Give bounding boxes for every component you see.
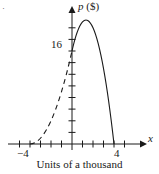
y-axis-symbol: p <box>78 0 84 12</box>
curve-dashed-branch <box>30 51 72 144</box>
x-axis-arrow-icon <box>140 141 147 148</box>
y-axis-label: p ($) <box>78 1 99 12</box>
y-axis-unit: ($) <box>86 0 99 12</box>
x-axis-label: x <box>148 133 153 144</box>
parabola-figure: · p ($) x 16 −4 4 Units of a thousand <box>0 0 159 174</box>
figure-caption: Units of a thousand <box>0 159 159 170</box>
vertex-value-label: 16 <box>51 39 62 50</box>
y-axis-arrow-icon <box>69 6 76 13</box>
curve-solid-branch <box>72 20 114 144</box>
figure-corner-mark: · <box>2 4 5 13</box>
x-tick-label-negative-four: −4 <box>17 148 29 159</box>
